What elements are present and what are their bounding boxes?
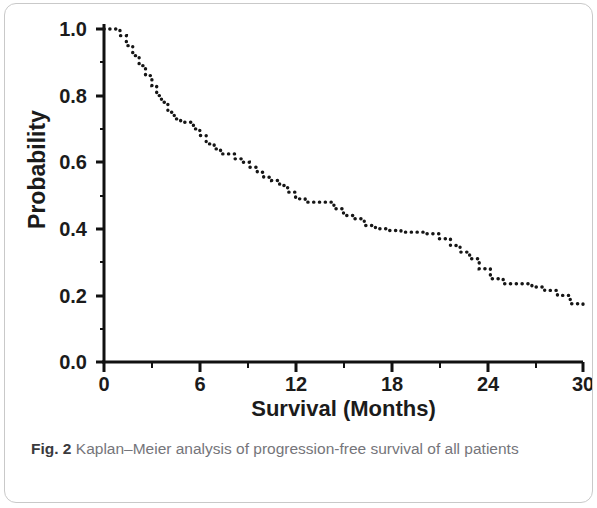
survival-plot <box>5 4 592 436</box>
survival-curve <box>104 29 583 305</box>
x-tick-label-12: 12 <box>276 374 316 394</box>
y-tick-label-00: 0.0 <box>35 352 87 372</box>
figure-caption-text: Kaplan–Meier analysis of progression-fre… <box>76 440 519 457</box>
x-tick-label-24: 24 <box>468 374 508 394</box>
figure-caption: Fig. 2 Kaplan–Meier analysis of progress… <box>31 438 571 460</box>
y-tick-label-08: 0.8 <box>35 86 87 106</box>
y-tick-label-02: 0.2 <box>35 286 87 306</box>
y-tick-label-06: 0.6 <box>35 152 87 172</box>
x-tick-label-18: 18 <box>372 374 412 394</box>
y-tick-label-1: 1.0 <box>35 19 87 39</box>
x-tick-label-0: 0 <box>84 374 124 394</box>
figure-caption-label: Fig. 2 <box>31 440 71 457</box>
x-tick-label-6: 6 <box>180 374 220 394</box>
x-tick-label-30: 30 <box>563 374 593 394</box>
x-axis-title: Survival (Months) <box>104 396 583 422</box>
y-tick-label-04: 0.4 <box>35 219 87 239</box>
figure-panel: Probability Survival (Months) 1.0 0.8 0.… <box>4 3 593 503</box>
kaplan-meier-chart: Probability Survival (Months) 1.0 0.8 0.… <box>5 4 592 436</box>
